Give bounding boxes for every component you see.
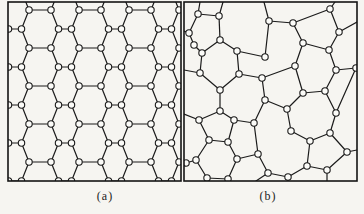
atom-node [266, 18, 272, 24]
atom-node [18, 64, 24, 70]
atom-node [225, 139, 231, 145]
atom-node [251, 120, 257, 126]
atom-node [48, 121, 54, 127]
atom-node [105, 26, 111, 32]
network-diagram-canvas [0, 0, 364, 214]
atom-node [304, 163, 310, 169]
atom-node [118, 26, 124, 32]
atom-node [105, 64, 111, 70]
atom-node [26, 121, 32, 127]
atom-node [148, 121, 154, 127]
atom-node [98, 45, 104, 51]
atom-node [148, 45, 154, 51]
atom-node [68, 140, 74, 146]
atom-node [76, 121, 82, 127]
atom-node [199, 50, 205, 56]
atom-node [105, 102, 111, 108]
atom-node [155, 64, 161, 70]
bond-edge [327, 152, 347, 170]
atom-node [206, 137, 212, 143]
atom-node [118, 102, 124, 108]
atom-node [231, 117, 237, 123]
atom-node [55, 140, 61, 146]
atom-node [98, 83, 104, 89]
atom-node [195, 11, 201, 17]
atom-node [26, 159, 32, 165]
atom-node [300, 40, 306, 46]
bond-edge [200, 73, 220, 90]
atom-node [336, 29, 342, 35]
bond-edge [262, 66, 295, 78]
atom-node [148, 159, 154, 165]
atom-node [191, 42, 197, 48]
atom-node [126, 159, 132, 165]
atom-node [48, 159, 54, 165]
atom-node [148, 83, 154, 89]
panel-a-label: (a) [85, 189, 125, 204]
atom-node [105, 140, 111, 146]
atom-node [262, 97, 268, 103]
atom-node [48, 7, 54, 13]
bond-edge [295, 66, 303, 93]
bond-edge [254, 100, 265, 123]
panel-b-label: (b) [248, 189, 288, 204]
atom-node [168, 102, 174, 108]
atom-node [76, 159, 82, 165]
atom-node [26, 7, 32, 13]
atom-node [26, 45, 32, 51]
atom-node [126, 45, 132, 51]
atom-node [55, 102, 61, 108]
atom-node [148, 7, 154, 13]
atom-node [126, 7, 132, 13]
bond-edge [336, 68, 356, 113]
atom-node [197, 70, 203, 76]
atom-node [68, 102, 74, 108]
atom-node [300, 90, 306, 96]
atom-node [48, 45, 54, 51]
panel-a-network [1, 0, 182, 184]
atom-node [168, 26, 174, 32]
atom-node [326, 47, 332, 53]
atom-node [98, 7, 104, 13]
atom-node [155, 140, 161, 146]
atom-node [344, 149, 350, 155]
atom-node [168, 64, 174, 70]
bond-edge [307, 141, 310, 166]
atom-node [324, 167, 330, 173]
atom-node [98, 159, 104, 165]
atom-node [126, 121, 132, 127]
atom-node [327, 6, 333, 12]
bond-edge [265, 21, 269, 57]
atom-node [118, 140, 124, 146]
bond-edge [330, 133, 347, 152]
atom-node [98, 121, 104, 127]
atom-node [217, 37, 223, 43]
atom-node [26, 83, 32, 89]
atom-node [76, 7, 82, 13]
bond-edge [303, 43, 329, 50]
atom-node [18, 102, 24, 108]
atom-node [259, 75, 265, 81]
atom-node [353, 65, 359, 71]
atom-node [68, 26, 74, 32]
atom-node [18, 26, 24, 32]
atom-node [126, 83, 132, 89]
atom-node [290, 20, 296, 26]
atom-node [118, 64, 124, 70]
panel-b-network [183, 2, 359, 182]
bond-edge [293, 9, 330, 23]
atom-node [327, 130, 333, 136]
atom-node [18, 140, 24, 146]
atom-node [217, 108, 223, 114]
atom-node [76, 45, 82, 51]
atom-node [155, 102, 161, 108]
bond-edge [237, 51, 265, 57]
atom-node [168, 140, 174, 146]
atom-node [196, 117, 202, 123]
atom-node [285, 174, 291, 180]
atom-node [48, 83, 54, 89]
atom-node [236, 71, 242, 77]
two-panel-network-figure: (a) (b) [0, 0, 364, 214]
atom-node [262, 54, 268, 60]
atom-node [284, 106, 290, 112]
